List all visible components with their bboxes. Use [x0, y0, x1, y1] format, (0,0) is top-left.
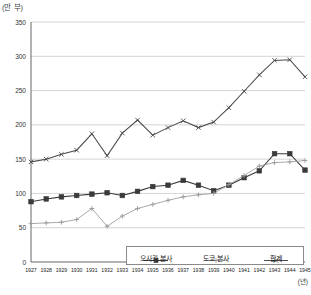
chart-legend: 오사카 본사도쿄 본사합계 [126, 246, 304, 265]
series-x [29, 58, 307, 165]
legend-label-2: 도쿄 본사 [195, 253, 237, 263]
chart-container: (만 부) (년) 050100150200250300350 19271928… [0, 0, 311, 295]
legend-label-3: 합계 [255, 253, 297, 263]
legend-label-1: 오사카 본사 [135, 253, 177, 263]
